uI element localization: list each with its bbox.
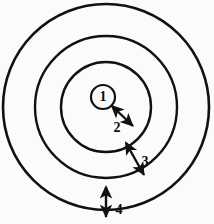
ring-2 (61, 62, 151, 152)
label-4: 4 (116, 202, 123, 217)
concentric-circles-diagram: 1 2 3 4 (0, 0, 214, 224)
label-2: 2 (114, 120, 121, 135)
figure-root: 1 2 3 4 (0, 0, 214, 224)
label-1: 1 (100, 89, 107, 104)
ring-3 (35, 36, 177, 178)
label-3: 3 (142, 154, 149, 169)
